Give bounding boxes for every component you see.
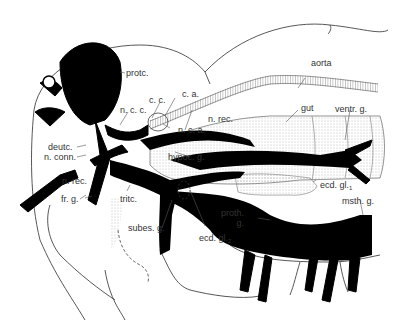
label-nervus-corporis-cardiaci: n. c. c. xyxy=(120,105,147,115)
label-recurrent-nerve-upper: n. rec. xyxy=(208,114,233,124)
label-aorta: aorta xyxy=(311,58,332,68)
label-hypocerebral-ganglion: hypoc. g. xyxy=(168,152,205,162)
label-deutocerebrum: deutc. xyxy=(48,142,73,152)
label-mesothoracic-ganglion: msth. g. xyxy=(342,196,374,206)
label-ecdysial-gland-2: ecd. gl.2 xyxy=(199,233,231,246)
label-subesophageal-ganglion: subes. g. xyxy=(128,223,165,233)
label-connective-nerve: n. conn. xyxy=(44,152,76,162)
label-corpus-allatum: c. a. xyxy=(182,89,199,99)
ecd-gland-1 xyxy=(235,174,317,195)
protocerebrum xyxy=(60,43,121,125)
label-frontal-ganglion: fr. g. xyxy=(61,194,79,204)
label-corpus-cardiacum: c. c. xyxy=(149,95,166,105)
label-protocerebrum: protc. xyxy=(126,68,149,78)
label-gut: gut xyxy=(301,103,314,113)
label-ventricular-ganglion: ventr. g. xyxy=(335,104,367,114)
label-tritocerebrum: tritc. xyxy=(120,194,137,204)
label-nervus-corporis-allati: n. c. a. xyxy=(178,125,205,135)
anatomy-drawing xyxy=(0,0,399,328)
label-ecdysial-gland-1: ecd. gl.1 xyxy=(320,180,352,193)
label-prothoracic-ganglion: proth.g. xyxy=(221,208,244,228)
label-recurrent-nerve-lower: n. rec. xyxy=(62,176,87,186)
